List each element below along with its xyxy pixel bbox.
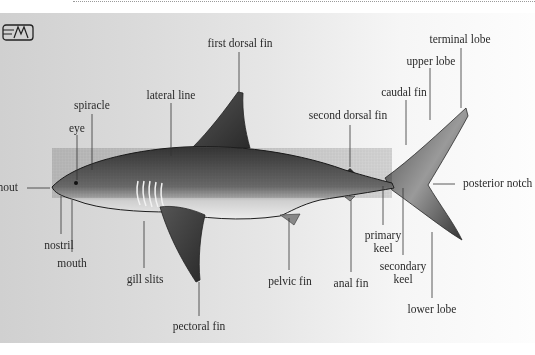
label-eye: eye bbox=[69, 122, 85, 135]
label-first-dorsal-fin: first dorsal fin bbox=[207, 37, 272, 50]
label-snout: snout bbox=[0, 181, 18, 194]
label-pelvic-fin: pelvic fin bbox=[268, 275, 312, 288]
label-spiracle: spiracle bbox=[74, 99, 110, 112]
label-pectoral-fin: pectoral fin bbox=[173, 320, 226, 333]
label-terminal-lobe: terminal lobe bbox=[430, 33, 491, 46]
label-primary-keel-line2: keel bbox=[373, 242, 392, 255]
eye-shape bbox=[74, 181, 78, 185]
pectoral-fin-shape bbox=[160, 206, 205, 282]
label-caudal-fin: caudal fin bbox=[381, 86, 427, 99]
label-mouth: mouth bbox=[57, 257, 86, 270]
label-secondary-keel-line1: secondary bbox=[380, 260, 427, 273]
label-second-dorsal-fin: second dorsal fin bbox=[309, 109, 388, 122]
label-anal-fin: anal fin bbox=[334, 277, 369, 290]
label-primary-keel-line1: primary bbox=[365, 229, 401, 242]
label-secondary-keel-line2: keel bbox=[393, 273, 412, 286]
label-nostril: nostril bbox=[44, 239, 73, 252]
label-lateral-line: lateral line bbox=[147, 89, 196, 102]
caudal-fin-shape bbox=[385, 108, 468, 240]
shark-illustration bbox=[0, 0, 535, 355]
label-upper-lobe: upper lobe bbox=[407, 55, 456, 68]
first-dorsal-fin-shape bbox=[192, 92, 250, 148]
label-posterior-notch: posterior notch bbox=[463, 177, 532, 190]
label-gill-slits: gill slits bbox=[127, 273, 164, 286]
label-lower-lobe: lower lobe bbox=[408, 303, 457, 316]
